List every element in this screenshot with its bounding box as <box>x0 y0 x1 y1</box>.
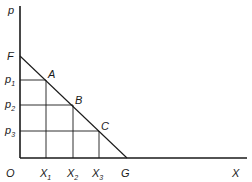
qty-x2-label: X2 <box>66 167 78 181</box>
price-p1-label: p1 <box>4 73 15 87</box>
intercept-f-label: F <box>7 50 15 62</box>
y-axis-label: p <box>7 4 14 16</box>
point-b-label: B <box>75 94 82 106</box>
qty-x1-label: X1 <box>39 167 51 181</box>
demand-diagram: p X O F G A B C p1 p2 p3 X1 X2 X3 <box>0 0 252 182</box>
point-a-label: A <box>47 68 55 80</box>
point-c-label: C <box>101 120 109 132</box>
x-axis-label: X <box>231 167 240 179</box>
price-p2-label: p2 <box>4 98 15 112</box>
qty-x3-label: X3 <box>91 167 103 181</box>
demand-line <box>20 56 127 158</box>
price-p3-label: p3 <box>4 124 15 138</box>
origin-label: O <box>6 167 15 179</box>
intercept-g-label: G <box>121 167 130 179</box>
